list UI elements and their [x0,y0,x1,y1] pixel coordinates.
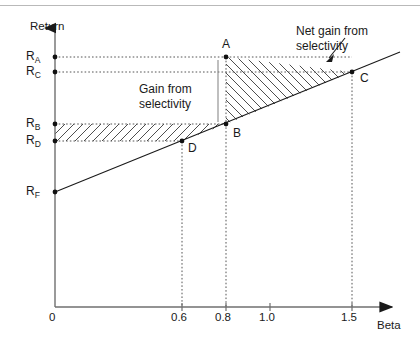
annotation-gain-from-selectivity: Gain from selectivity [139,82,192,112]
annotation-net-gain-from-selectivity: Net gain from selectivity [296,24,368,54]
x-axis-label: Beta [377,320,401,332]
tickdot-ra [53,55,58,60]
region-gain-band [50,118,235,148]
y-tick-rf: RF [26,185,40,200]
y-tick-ra: RA [26,50,40,65]
point-label-b: B [233,127,241,139]
x-tick-08: 0.8 [215,312,231,324]
tickdot-rf [53,190,58,195]
x-tick-0: 0 [49,312,55,324]
region-net-gain-triangle [220,50,360,135]
y-tick-rd: RD [26,134,41,149]
net-text-line1: Net gain from [296,24,368,39]
y-tick-rb: RB [26,117,40,132]
point-c [350,70,355,75]
guide-lines [55,57,352,307]
x-tick-10: 1.0 [259,312,275,324]
tickdot-rb [53,122,58,127]
y-axis-label: Return [30,21,65,33]
point-label-a: A [222,38,230,50]
point-label-d: D [188,142,197,154]
point-b [224,122,229,127]
point-label-c: C [360,72,369,84]
gain-text-line1: Gain from [139,82,192,97]
figure-container: Return RA RC RB RD RF 0 0.6 0.8 1.0 1.5 … [0,0,420,345]
tickdot-rc [53,70,58,75]
x-tick-06: 0.6 [171,312,187,324]
y-tick-rc: RC [26,65,41,80]
point-a [224,55,229,60]
net-text-line2: selectivity [296,39,368,54]
gain-text-line2: selectivity [139,97,192,112]
x-tick-15: 1.5 [341,312,357,324]
point-d [180,139,185,144]
tickdot-rd [53,139,58,144]
